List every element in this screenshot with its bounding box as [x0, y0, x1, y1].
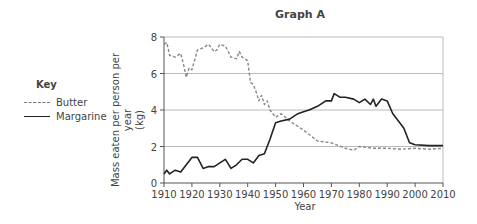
- x-tick-label: 1990: [374, 189, 399, 200]
- x-tick-label: 1950: [263, 189, 288, 200]
- x-tick-label: 2010: [430, 189, 455, 200]
- x-tick-label: 2000: [402, 189, 427, 200]
- y-tick-label: 2: [151, 142, 157, 153]
- x-axis-label: Year: [280, 201, 330, 212]
- y-tick-label: 6: [151, 69, 157, 80]
- y-tick-label: 0: [151, 178, 157, 189]
- x-tick-label: 1960: [291, 189, 316, 200]
- margarine-line: [164, 94, 443, 174]
- butter-line: [164, 43, 443, 151]
- x-tick-label: 1920: [179, 189, 204, 200]
- x-tick-label: 1970: [319, 189, 344, 200]
- x-tick-label: 1910: [151, 189, 176, 200]
- y-tick-label: 4: [151, 105, 157, 116]
- x-tick-label: 1930: [207, 189, 232, 200]
- plot-area: 0246819101920193019401950196019701980199…: [0, 0, 477, 224]
- x-tick-label: 1980: [347, 189, 372, 200]
- y-tick-label: 8: [151, 32, 157, 43]
- x-tick-label: 1940: [235, 189, 260, 200]
